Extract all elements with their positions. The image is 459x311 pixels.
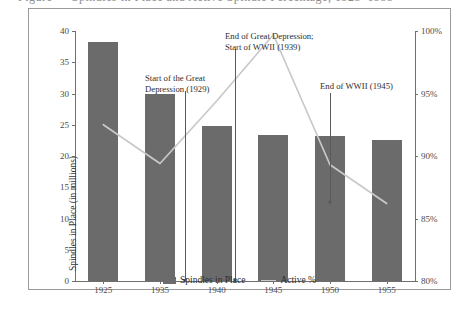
y-tick-label: 30	[60, 89, 69, 99]
x-tick-label: 1955	[378, 285, 396, 295]
y2-tick-label: 95%	[421, 89, 438, 99]
ann-1929-label: Start of the Great Depression (1929)	[145, 73, 209, 94]
x-tick-label: 1935	[151, 285, 169, 295]
y2-tick-label: 85%	[421, 214, 438, 224]
y-tick-label: 40	[60, 26, 69, 36]
y-tick-label: 25	[60, 120, 69, 130]
ann-1939-label: End of Great Depression; Start of WWII (…	[225, 31, 314, 52]
line-series	[75, 31, 415, 281]
y2-tick	[415, 156, 418, 157]
ann-1945-arrowhead-icon	[328, 201, 332, 205]
ann-1945-leader-line	[330, 93, 331, 201]
ann-1945-label: End of WWII (1945)	[320, 81, 393, 92]
line-swatch-icon	[261, 280, 276, 281]
x-tick-label: 1945	[264, 285, 282, 295]
x-tick-label: 1940	[208, 285, 226, 295]
x-tick-label: 1950	[321, 285, 339, 295]
legend-entry-active: Active %	[261, 275, 316, 285]
chart-legend: Spindles in Place Active %	[29, 275, 450, 285]
y-tick-label: 10	[60, 214, 69, 224]
y-tick-label: 5	[65, 245, 70, 255]
y-tick-label: 20	[60, 151, 69, 161]
y2-tick-label: 100%	[421, 26, 442, 36]
ann-1929-leader-line	[185, 91, 186, 279]
y2-tick	[415, 94, 418, 95]
y2-tick	[415, 31, 418, 32]
y2-tick-label: 90%	[421, 151, 438, 161]
clipped-title-sliver: Figure — Spindles in Place and Active Sp…	[0, 0, 459, 7]
bar-swatch-icon	[163, 277, 176, 284]
y-tick-label: 15	[60, 182, 69, 192]
legend-label-active: Active %	[280, 275, 316, 285]
legend-entry-spindles: Spindles in Place	[163, 275, 245, 285]
y-tick-label: 35	[60, 57, 69, 67]
y2-tick	[415, 219, 418, 220]
chart-frame: Spindles in Place (in millions) Active S…	[28, 8, 451, 290]
clipped-title-text: Figure — Spindles in Place and Active Sp…	[18, 0, 448, 5]
plot-area: Spindles in Place (in millions) Active S…	[75, 31, 415, 281]
ann-1939-leader-line	[235, 49, 236, 279]
x-tick-label: 1925	[94, 285, 112, 295]
chart-screenshot: Figure — Spindles in Place and Active Sp…	[0, 0, 459, 311]
legend-label-spindles: Spindles in Place	[180, 275, 245, 285]
